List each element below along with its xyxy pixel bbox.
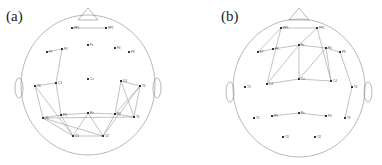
connection-F8-T4 [340,52,352,87]
electrode-F8 [128,51,130,53]
electrode-Fz [298,44,300,46]
electrode-label: F3 [64,47,68,51]
electrode-label: T6 [136,115,140,119]
connection-T6-T4 [134,86,140,117]
connection-FP2-C4 [317,28,331,81]
electrode-label: FP1 [283,26,289,30]
electrode-C4 [330,80,332,82]
connection-F3-C3 [56,49,62,83]
electrode-FP1 [280,27,282,29]
connection-T3-O1 [35,86,73,136]
electrode-label: T6 [347,116,351,120]
electrode-label: F8 [131,50,135,54]
head-outline [233,19,365,157]
electrode-Cz [298,78,300,80]
electrode-FP2 [316,27,318,29]
electrode-C3 [266,83,268,85]
electrode-F7 [46,51,48,53]
electrode-Cz [87,78,89,80]
electrode-label: FP2 [319,26,325,30]
electrode-O2 [102,135,104,137]
electrode-label: C3 [58,81,62,85]
electrode-C4 [120,80,122,82]
connection-T5-O2 [43,118,103,136]
electrode-Pz [298,112,300,114]
electrode-FP2 [105,27,107,29]
electrode-T3 [34,85,36,87]
connection-Pz-O2 [88,113,103,136]
electrode-FP1 [71,27,73,29]
electrode-P3 [60,114,62,116]
electrode-label: FP2 [108,26,114,30]
electrode-label: F4 [328,46,332,50]
electrode-O1 [72,135,74,137]
panel-b: (b) FP1FP2F7F3FzF4F8T3C3CzC4T4T5P3PzP4T6… [191,0,382,165]
connection-C4-T6 [121,81,134,117]
electrode-O1 [282,136,284,138]
head-diagram-a: FP1FP2F7F3FzF4F8C3CzC4T3T4T5P3PzP4T6O1O2 [0,0,191,165]
electrode-F3 [61,48,63,50]
electrode-P4 [325,115,327,117]
electrode-F7 [257,51,259,53]
connection-T4-P4 [115,86,140,114]
electrode-label: T5 [45,116,49,120]
electrode-T5 [42,117,44,119]
electrode-label: Cz [301,77,305,81]
electrode-label: C4 [333,79,337,83]
electrode-label: O2 [317,135,321,139]
electrode-label: O1 [285,135,289,139]
electrode-label: T5 [256,116,260,120]
electrode-label: P3 [274,114,278,118]
electrode-label: Pz [90,111,94,115]
connection-F4-Cz [299,48,326,79]
electrode-T3 [244,86,246,88]
electrode-label: F7 [49,50,53,54]
electrode-label: O2 [105,134,109,138]
electrode-Fz [87,44,89,46]
connection-T5-T6 [43,117,134,118]
connection-C4-P4 [115,81,121,114]
panel-a: (a) FP1FP2F7F3FzF4F8C3CzC4T3T4T5P3PzP4T6… [0,0,191,165]
electrode-Pz [87,112,89,114]
electrode-F3 [272,48,274,50]
electrode-label: O1 [75,134,79,138]
electrode-F4 [325,47,327,49]
electrode-F8 [339,51,341,53]
nose-icon [289,8,309,20]
electrode-label: T4 [354,85,358,89]
electrode-T5 [253,117,255,119]
electrode-C3 [55,82,57,84]
electrode-label: P4 [328,114,332,118]
electrode-T6 [133,116,135,118]
electrode-label: C3 [269,82,273,86]
electrode-T4 [351,86,353,88]
connection-T4-T6 [345,87,352,118]
electrode-P3 [271,115,273,117]
electrode-label: T3 [247,85,251,89]
electrode-label: T4 [142,84,146,88]
electrode-label: F4 [117,46,121,50]
electrode-label: Cz [90,77,94,81]
electrode-O2 [314,136,316,138]
connection-C3-P3 [56,83,61,115]
electrode-label: C4 [123,79,127,83]
electrode-label: P3 [63,113,67,117]
electrode-T6 [344,117,346,119]
electrode-label: F8 [342,50,346,54]
electrode-label: FP1 [74,26,80,30]
electrode-P4 [114,113,116,115]
electrode-F4 [114,47,116,49]
electrode-label: Fz [90,43,94,47]
connection-Pz-O1 [73,113,88,136]
connection-P3-O1 [61,115,73,136]
electrode-label: Fz [301,43,305,47]
connection-O2-T4 [103,86,140,136]
electrode-label: F7 [260,50,264,54]
electrode-label: F3 [275,47,279,51]
electrode-T4 [139,85,141,87]
electrode-label: P4 [117,112,121,116]
electrode-label: T3 [37,84,41,88]
electrode-label: Pz [301,111,305,115]
connection-T5-O1 [43,118,73,136]
nose-icon [78,8,98,20]
